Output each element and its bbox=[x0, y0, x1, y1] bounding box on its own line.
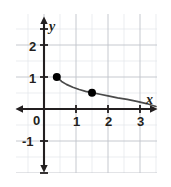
data-point bbox=[88, 89, 96, 97]
minor-gridlines bbox=[16, 14, 157, 173]
data-point bbox=[53, 73, 61, 81]
y-axis-label: y bbox=[49, 20, 55, 34]
x-tick-label-2: 2 bbox=[105, 115, 112, 128]
function-curve bbox=[57, 77, 156, 106]
x-tick-label-3: 3 bbox=[137, 115, 144, 128]
x-axis-label: x bbox=[146, 93, 153, 107]
y-axis-up-arrow bbox=[40, 17, 47, 25]
axes bbox=[16, 17, 158, 173]
y-tick-label-2: 2 bbox=[29, 40, 36, 53]
coordinate-graph-figure: y x 0 1 2 3 1 2 -1 bbox=[0, 0, 171, 187]
y-tick-label-negative-1: -1 bbox=[22, 135, 34, 148]
x-axis-left-arrow bbox=[16, 105, 24, 112]
origin-label: 0 bbox=[33, 114, 40, 127]
tick-marks bbox=[40, 29, 140, 173]
x-tick-label-1: 1 bbox=[73, 115, 80, 128]
y-axis-down-arrow bbox=[40, 165, 47, 173]
y-tick-label-1: 1 bbox=[29, 72, 36, 85]
